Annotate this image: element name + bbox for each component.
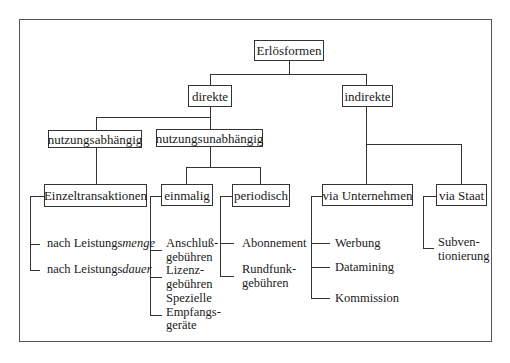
leaf-rundfunkgebuehren: Rundfunk- gebühren bbox=[242, 263, 296, 290]
leaf-kommission: Kommission bbox=[335, 292, 399, 306]
leaf-lizenzgebuehren: Lizenz- gebühren bbox=[166, 264, 213, 291]
leaf-line: Datamining bbox=[335, 261, 394, 275]
leaf-leistungsmenge: nach Leistungsmenge bbox=[47, 237, 155, 251]
node-via-unternehmen: via Unternehmen bbox=[322, 184, 413, 206]
node-einzeltransaktionen: Einzeltransaktionen bbox=[44, 184, 147, 207]
leaf-line: Kommission bbox=[335, 292, 399, 306]
leaf-line: gebühren bbox=[166, 278, 213, 292]
leaf-anschlussgebuehren: Anschluß- gebühren bbox=[166, 237, 218, 264]
leaf-line: Rundfunk- bbox=[242, 263, 296, 277]
leaf-line: Lizenz- bbox=[166, 264, 213, 278]
node-nutzungsunabhaengig: nutzungsunabhängig bbox=[156, 129, 263, 147]
node-einmalig: einmalig bbox=[161, 184, 213, 206]
leaf-datamining: Datamining bbox=[335, 261, 394, 275]
leaf-text: nach Leistungs bbox=[47, 262, 122, 276]
leaf-line: gebühren bbox=[166, 251, 218, 265]
node-indirekte: indirekte bbox=[342, 85, 393, 107]
leaf-line: Empfangs- bbox=[166, 306, 221, 320]
node-via-staat: via Staat bbox=[436, 184, 487, 206]
leaf-text: nach Leistungs bbox=[47, 236, 122, 250]
node-direkte: direkte bbox=[188, 85, 232, 107]
leaf-line: Abonnement bbox=[242, 237, 307, 251]
leaf-line: geräte bbox=[166, 319, 221, 333]
leaf-line: Subven- bbox=[438, 236, 489, 250]
leaf-emphasis: dauer bbox=[122, 262, 151, 276]
leaf-line: Werbung bbox=[335, 237, 381, 251]
leaf-empfangsgeraete: Spezielle Empfangs- geräte bbox=[166, 292, 221, 333]
node-periodisch: periodisch bbox=[232, 184, 290, 207]
leaf-line: gebühren bbox=[242, 277, 296, 291]
leaf-emphasis: menge bbox=[122, 236, 155, 250]
leaf-subventionierung: Subven- tionierung bbox=[438, 236, 489, 263]
leaf-line: Spezielle bbox=[166, 292, 221, 306]
node-erloesformen: Erlösformen bbox=[254, 40, 324, 61]
leaf-abonnement: Abonnement bbox=[242, 237, 307, 251]
leaf-line: Anschluß- bbox=[166, 237, 218, 251]
node-nutzungsabhaengig: nutzungsabhängig bbox=[48, 130, 142, 148]
leaf-leistungsdauer: nach Leistungsdauer bbox=[47, 263, 152, 277]
leaf-werbung: Werbung bbox=[335, 237, 381, 251]
leaf-line: tionierung bbox=[438, 250, 489, 264]
